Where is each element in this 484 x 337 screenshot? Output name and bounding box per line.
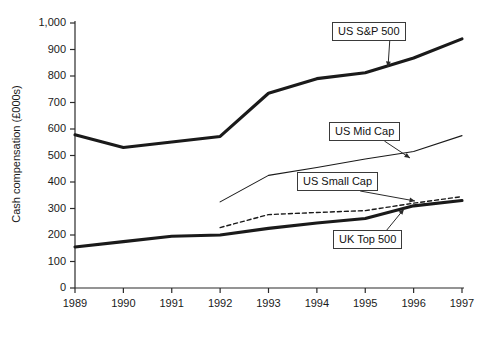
x-tick-label: 1989	[51, 297, 99, 309]
callout-arrowhead	[404, 153, 410, 158]
callout-uk-top-500: UK Top 500	[333, 230, 402, 249]
y-tick-label: 700	[20, 96, 66, 108]
plot-area	[0, 0, 484, 337]
x-tick-label: 1995	[341, 297, 389, 309]
callout-arrowhead	[409, 198, 415, 203]
x-tick-label: 1990	[99, 297, 147, 309]
callout-us-s-p-500: US S&P 500	[332, 22, 406, 41]
x-tick-label: 1996	[390, 297, 438, 309]
tick-marks-group	[70, 23, 462, 293]
series-line-uk-top-500	[75, 201, 462, 247]
y-tick-label: 400	[20, 175, 66, 187]
series-line-us-small-cap	[220, 197, 462, 228]
series-line-us-mid-cap	[220, 136, 462, 202]
data-series-group	[75, 39, 462, 247]
callout-us-small-cap: US Small Cap	[297, 172, 378, 191]
series-line-us-s-p-500	[75, 39, 462, 148]
x-tick-label: 1993	[245, 297, 293, 309]
y-tick-label: 200	[20, 228, 66, 240]
x-tick-label: 1991	[148, 297, 196, 309]
callout-us-mid-cap: US Mid Cap	[329, 122, 400, 141]
y-tick-label: 900	[20, 43, 66, 55]
y-tick-label: 300	[20, 202, 66, 214]
y-tick-label: 100	[20, 255, 66, 267]
x-tick-label: 1997	[438, 297, 484, 309]
x-tick-label: 1992	[196, 297, 244, 309]
callout-leader-line	[360, 191, 415, 201]
y-tick-label: 500	[20, 149, 66, 161]
x-tick-label: 1994	[293, 297, 341, 309]
cash-compensation-line-chart: Cash compensation (£000s) 01002003004005…	[0, 0, 484, 337]
y-tick-label: 800	[20, 69, 66, 81]
y-tick-label: 0	[20, 281, 66, 293]
y-tick-label: 1,000	[20, 16, 66, 28]
y-tick-label: 600	[20, 122, 66, 134]
